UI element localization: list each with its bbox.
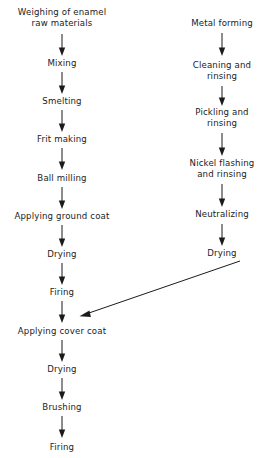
node-pickling-rinsing-line2: rinsing [207,118,237,128]
connector-metal-to-cover-coat [80,261,241,317]
flowchart-canvas: Weighing of enamel raw materials Mixing … [0,0,275,458]
node-nickel-flashing-line1: Nickel flashing [190,158,255,168]
node-firing-ground: Firing [50,287,74,297]
node-ball-milling: Ball milling [37,173,86,183]
node-frit-making: Frit making [37,134,87,144]
node-weighing-line1: Weighing of enamel [18,7,106,17]
node-cleaning-rinsing-line1: Cleaning and [193,60,251,70]
node-cleaning-rinsing-line2: rinsing [207,71,237,81]
arrow-frit-making-to-ball-milling [59,148,65,170]
node-metal-forming: Metal forming [191,18,253,28]
flowchart-svg: Weighing of enamel raw materials Mixing … [0,0,275,458]
arrow-drying-cover-to-brushing [59,378,65,400]
arrow-mixing-to-smelting [59,72,65,94]
node-drying-ground: Drying [47,249,76,259]
node-brushing: Brushing [42,402,81,412]
node-neutralizing: Neutralizing [195,209,249,219]
node-applying-ground-coat: Applying ground coat [14,211,110,221]
arrow-drying-ground-to-firing [59,263,65,285]
arrow-smelting-to-frit-making [59,110,65,132]
node-nickel-flashing-line2: and rinsing [197,169,247,179]
arrow-firing-ground-to-applying-cover-coat [59,301,65,323]
arrow-weighing-to-mixing [59,34,65,56]
arrow-pickling-to-nickel-flashing [219,133,225,156]
arrow-neutralizing-to-drying-metal [219,224,225,246]
node-drying-cover: Drying [47,364,76,374]
node-firing-cover: Firing [50,442,74,452]
arrow-brushing-to-firing-cover [59,416,65,438]
arrow-metal-forming-to-cleaning [219,33,225,56]
node-smelting: Smelting [42,96,81,106]
node-applying-cover-coat: Applying cover coat [18,326,107,336]
arrow-ball-milling-to-applying-ground-coat [59,187,65,209]
arrow-applying-cover-coat-to-drying [59,340,65,362]
arrow-cleaning-to-pickling [219,86,225,106]
node-mixing: Mixing [47,58,76,68]
node-pickling-rinsing-line1: Pickling and [195,107,248,117]
node-weighing-line2: raw materials [32,18,93,28]
node-drying-metal: Drying [207,248,236,258]
arrow-applying-ground-coat-to-drying [59,225,65,247]
arrow-nickel-flashing-to-neutralizing [219,184,225,207]
